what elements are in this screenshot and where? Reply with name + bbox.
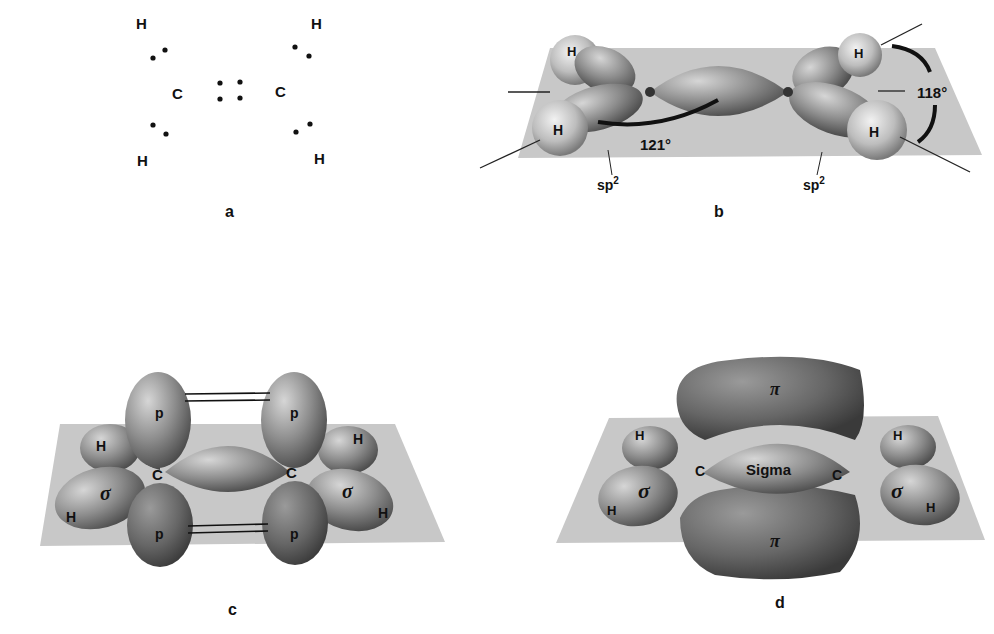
panel-a-lewis-structure: H H H H C C a bbox=[136, 15, 325, 220]
pi-label: π bbox=[770, 531, 781, 551]
sigma-label: σ bbox=[342, 480, 354, 502]
orbital-p: p bbox=[290, 526, 299, 542]
atom-c: C bbox=[832, 467, 842, 483]
atom-h: H bbox=[553, 122, 563, 138]
atom-c: C bbox=[152, 466, 163, 483]
atom-h: H bbox=[311, 15, 322, 32]
orbital-p: p bbox=[290, 405, 299, 421]
panel-caption: b bbox=[714, 203, 724, 220]
pi-label: π bbox=[770, 379, 781, 399]
atom-h: H bbox=[869, 124, 879, 140]
panel-caption: c bbox=[228, 601, 237, 618]
sigma-label: σ bbox=[891, 478, 904, 503]
atom-h: H bbox=[926, 500, 935, 515]
orbital-p: p bbox=[155, 526, 164, 542]
sigma-bond-label: Sigma bbox=[746, 461, 792, 478]
atom-h: H bbox=[66, 509, 76, 525]
atom-c: C bbox=[172, 85, 183, 102]
atom-c: C bbox=[275, 83, 286, 100]
atom-h: H bbox=[137, 152, 148, 169]
panel-b-sp2-geometry: H H H H 121° 118° sp2 sp2 b bbox=[480, 24, 982, 220]
atom-h: H bbox=[314, 150, 325, 167]
atom-h: H bbox=[854, 46, 863, 61]
angle-label-121: 121° bbox=[640, 136, 671, 153]
atom-h: H bbox=[96, 438, 106, 454]
atom-h: H bbox=[353, 431, 363, 447]
atom-h: H bbox=[635, 428, 644, 443]
hybrid-label: sp2 bbox=[803, 175, 825, 193]
atom-c: C bbox=[286, 464, 297, 481]
orbital-p: p bbox=[155, 405, 164, 421]
atom-h: H bbox=[567, 44, 576, 59]
panel-caption: d bbox=[775, 594, 785, 611]
panel-caption: a bbox=[225, 203, 234, 220]
sigma-label: σ bbox=[638, 478, 651, 503]
atom-h: H bbox=[893, 428, 902, 443]
ethylene-bonding-figure: H H H H C C a H H H bbox=[0, 0, 994, 634]
panel-c-p-orbitals: p p p p H H H H C C σ σ c bbox=[40, 372, 445, 618]
hybrid-label: sp2 bbox=[597, 175, 619, 193]
sigma-label: σ bbox=[100, 482, 112, 504]
atom-h: H bbox=[136, 15, 147, 32]
panel-d-pi-sigma-bonds: H H H H C C Sigma π π σ σ d bbox=[556, 357, 985, 611]
atom-h: H bbox=[607, 503, 616, 518]
angle-label-118: 118° bbox=[917, 84, 947, 101]
atom-h: H bbox=[378, 505, 388, 521]
atom-c: C bbox=[695, 463, 705, 479]
